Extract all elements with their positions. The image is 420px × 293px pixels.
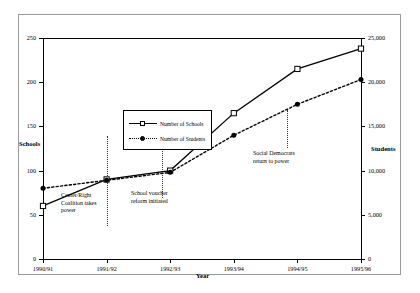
- x-tick: [297, 259, 298, 263]
- x-tick: [107, 259, 108, 263]
- y-tick-right: [361, 82, 365, 83]
- x-tick-label: 1991/92: [96, 266, 116, 272]
- data-point-marker: [41, 186, 46, 191]
- y-tick-label-left: 100: [27, 168, 36, 174]
- data-point-marker: [40, 203, 45, 208]
- x-tick-label: 1994/95: [287, 266, 307, 272]
- legend-label: Number of Students: [158, 136, 205, 142]
- x-tick: [170, 259, 171, 263]
- y-tick-right: [361, 38, 365, 39]
- data-point-marker: [358, 46, 363, 51]
- data-point-marker: [231, 111, 236, 116]
- data-point-marker: [295, 102, 300, 107]
- legend-label: Number of Schools: [158, 121, 204, 127]
- x-tick: [234, 259, 235, 263]
- y-tick-label-left: 200: [27, 79, 36, 85]
- y-tick-label-right: 15,000: [368, 123, 385, 129]
- legend: Number of Schools Number of Students: [123, 110, 212, 150]
- x-tick-label: 1990/91: [33, 266, 53, 272]
- x-tick: [361, 259, 362, 263]
- y-tick-label-right: 25,000: [368, 35, 385, 41]
- data-point-marker: [104, 178, 109, 183]
- legend-swatch-open-square-icon: [128, 119, 158, 129]
- axis-title-year: Year: [196, 272, 209, 279]
- x-tick-label: 1995/96: [351, 266, 371, 272]
- y-tick-label-left: 50: [30, 212, 36, 218]
- y-tick-label-left: 0: [33, 256, 36, 262]
- y-tick-right: [361, 215, 365, 216]
- data-point-marker: [359, 77, 364, 82]
- axis-title-schools: Schools: [19, 140, 40, 147]
- y-tick-label-right: 10,000: [368, 168, 385, 174]
- data-point-marker: [295, 66, 300, 71]
- x-tick-label: 1992/93: [160, 266, 180, 272]
- legend-entry-number-of-students: Number of Students: [128, 131, 207, 146]
- x-tick-label: 1993/94: [224, 266, 244, 272]
- legend-entry-number-of-schools: Number of Schools: [128, 116, 207, 131]
- data-point-marker: [168, 170, 173, 175]
- x-tick: [43, 259, 44, 263]
- axis-title-students: Students: [371, 145, 396, 152]
- axis-bottom-spine: [43, 259, 361, 260]
- y-tick-label-right: 20,000: [368, 79, 385, 85]
- y-tick-label-right: 5,000: [368, 212, 382, 218]
- y-tick-label-right: 0: [368, 256, 371, 262]
- y-tick-label-left: 150: [27, 123, 36, 129]
- legend-swatch-filled-circle-icon: [128, 134, 158, 144]
- data-point-marker: [231, 133, 236, 138]
- y-tick-label-left: 250: [27, 35, 36, 41]
- y-tick-right: [361, 171, 365, 172]
- chart-figure: 250 200 150 100 50 0 25,000 20,000 15,00…: [0, 0, 420, 293]
- plot-area: 250 200 150 100 50 0 25,000 20,000 15,00…: [43, 38, 361, 259]
- axis-right-spine: [361, 38, 362, 259]
- y-tick-right: [361, 126, 365, 127]
